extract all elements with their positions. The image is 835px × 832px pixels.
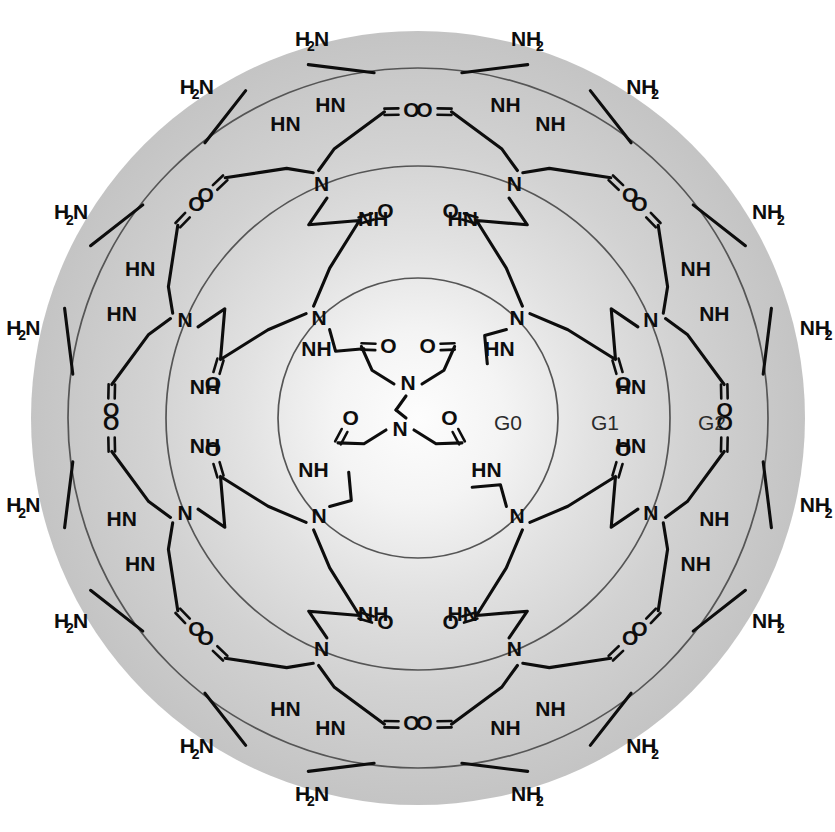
- g2-amide-nitrogen: HN: [125, 257, 155, 280]
- terminal-amine-group: NH2: [800, 316, 833, 343]
- g0-branch-nitrogen: N: [509, 306, 524, 329]
- g2-amide-nitrogen: NH: [681, 257, 711, 280]
- g2-carbonyl-oxygen: O: [198, 183, 214, 206]
- terminal-amine-group: NH2: [511, 782, 544, 809]
- amine-subscript: 2: [825, 505, 833, 521]
- g2-carbonyl-oxygen: O: [622, 626, 638, 649]
- g0-branch-nitrogen: N: [311, 306, 326, 329]
- g1-carbonyl-oxygen: O: [377, 199, 393, 222]
- g2-carbonyl-oxygen: O: [403, 711, 419, 734]
- g2-amide-nitrogen: HN: [106, 507, 136, 530]
- terminal-amine-group: NH2: [752, 200, 785, 227]
- terminal-amine-group: H2N: [180, 734, 214, 761]
- amine-n-label: N: [199, 734, 214, 757]
- core-nitrogen-top: N: [400, 371, 415, 394]
- g0-carbonyl-oxygen: O: [342, 406, 358, 429]
- g2-carbonyl-oxygen: O: [631, 192, 647, 215]
- g2-amide-nitrogen: NH: [699, 302, 729, 325]
- g1-branch-nitrogen: N: [178, 308, 193, 331]
- generation-label-g0: G0: [494, 411, 522, 434]
- dendrimer-figure: NNONHOHNONHOHNNNNNHNONHNONHNONHNONNHONNH…: [0, 0, 835, 832]
- generation-label-g2: G2: [698, 411, 726, 434]
- g2-amide-nitrogen: HN: [315, 716, 345, 739]
- g2-amide-nitrogen: HN: [315, 93, 345, 116]
- g2-amide-nitrogen: HN: [270, 112, 300, 135]
- g1-branch-nitrogen: N: [314, 637, 329, 660]
- amine-subscript: 2: [536, 793, 544, 809]
- amine-subscript: 2: [777, 212, 785, 228]
- g2-amide-nitrogen: NH: [681, 552, 711, 575]
- g0-carbonyl-oxygen: O: [419, 334, 435, 357]
- terminal-amine-group: H2N: [54, 609, 88, 636]
- g1-carbonyl-oxygen: O: [205, 372, 221, 395]
- amine-subscript: 2: [651, 746, 659, 762]
- g1-branch-nitrogen: N: [507, 637, 522, 660]
- g0-carbonyl-oxygen: O: [441, 406, 457, 429]
- core-nitrogen-bottom: N: [392, 417, 407, 440]
- g0-carbonyl-oxygen: O: [380, 334, 396, 357]
- terminal-amine-group: NH2: [800, 493, 833, 520]
- terminal-amine-group: H2N: [6, 316, 40, 343]
- g0-branch-nitrogen: N: [311, 504, 326, 527]
- g1-branch-nitrogen: N: [643, 501, 658, 524]
- amine-subscript: 2: [651, 86, 659, 102]
- g1-carbonyl-oxygen: O: [615, 437, 631, 460]
- g1-carbonyl-oxygen: O: [205, 437, 221, 460]
- g0-branch-nitrogen: N: [509, 504, 524, 527]
- generation-label-g1: G1: [591, 411, 619, 434]
- g2-amide-nitrogen: HN: [125, 552, 155, 575]
- g2-amide-nitrogen: NH: [535, 112, 565, 135]
- dendrimer-disk: [31, 31, 805, 805]
- g0-amide-nitrogen: NH: [301, 337, 331, 360]
- g2-carbonyl-oxygen: O: [188, 617, 204, 640]
- g2-amide-nitrogen: NH: [535, 697, 565, 720]
- dendrimer-svg: NNONHOHNONHOHNNNNNHNONHNONHNONHNONNHONNH…: [0, 0, 835, 832]
- amine-subscript: 2: [825, 327, 833, 343]
- g2-amide-nitrogen: HN: [270, 697, 300, 720]
- g1-branch-nitrogen: N: [178, 501, 193, 524]
- amine-n-label: N: [25, 316, 40, 339]
- g1-branch-nitrogen: N: [314, 172, 329, 195]
- terminal-amine-group: H2N: [54, 200, 88, 227]
- amine-n-label: N: [314, 27, 329, 50]
- amine-n-label: N: [314, 782, 329, 805]
- g2-amide-nitrogen: HN: [106, 302, 136, 325]
- terminal-amine-group: H2N: [6, 493, 40, 520]
- g1-branch-nitrogen: N: [507, 172, 522, 195]
- g1-carbonyl-oxygen: O: [442, 199, 458, 222]
- g0-amide-nitrogen: NH: [298, 458, 328, 481]
- g1-branch-nitrogen: N: [643, 308, 658, 331]
- g0-amide-nitrogen: HN: [484, 337, 514, 360]
- g2-amide-nitrogen: NH: [490, 716, 520, 739]
- amine-n-label: N: [25, 493, 40, 516]
- amine-subscript: 2: [536, 38, 544, 54]
- g1-carbonyl-oxygen: O: [442, 610, 458, 633]
- terminal-amine-group: NH2: [626, 734, 659, 761]
- g2-carbonyl-oxygen: O: [103, 398, 119, 421]
- amine-n-label: N: [199, 75, 214, 98]
- amine-n-label: N: [73, 609, 88, 632]
- g1-carbonyl-oxygen: O: [615, 372, 631, 395]
- g2-carbonyl-oxygen: O: [403, 98, 419, 121]
- g0-amide-nitrogen: HN: [471, 458, 501, 481]
- g1-carbonyl-oxygen: O: [377, 610, 393, 633]
- terminal-amine-group: NH2: [752, 609, 785, 636]
- g2-amide-nitrogen: NH: [699, 507, 729, 530]
- amine-subscript: 2: [777, 620, 785, 636]
- g2-amide-nitrogen: NH: [490, 93, 520, 116]
- amine-n-label: N: [73, 200, 88, 223]
